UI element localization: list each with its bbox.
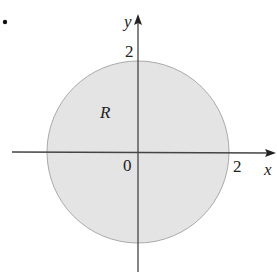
- y-axis-label: y: [122, 12, 132, 31]
- x-axis-label: x: [263, 160, 272, 179]
- item-bullet: [3, 20, 7, 24]
- y-tick-label: 2: [125, 42, 134, 61]
- x-tick-label: 2: [233, 157, 242, 176]
- region-label: R: [99, 103, 111, 122]
- origin-label: 0: [123, 156, 132, 175]
- region-diagram: y 2 R 0 2 x: [0, 0, 277, 273]
